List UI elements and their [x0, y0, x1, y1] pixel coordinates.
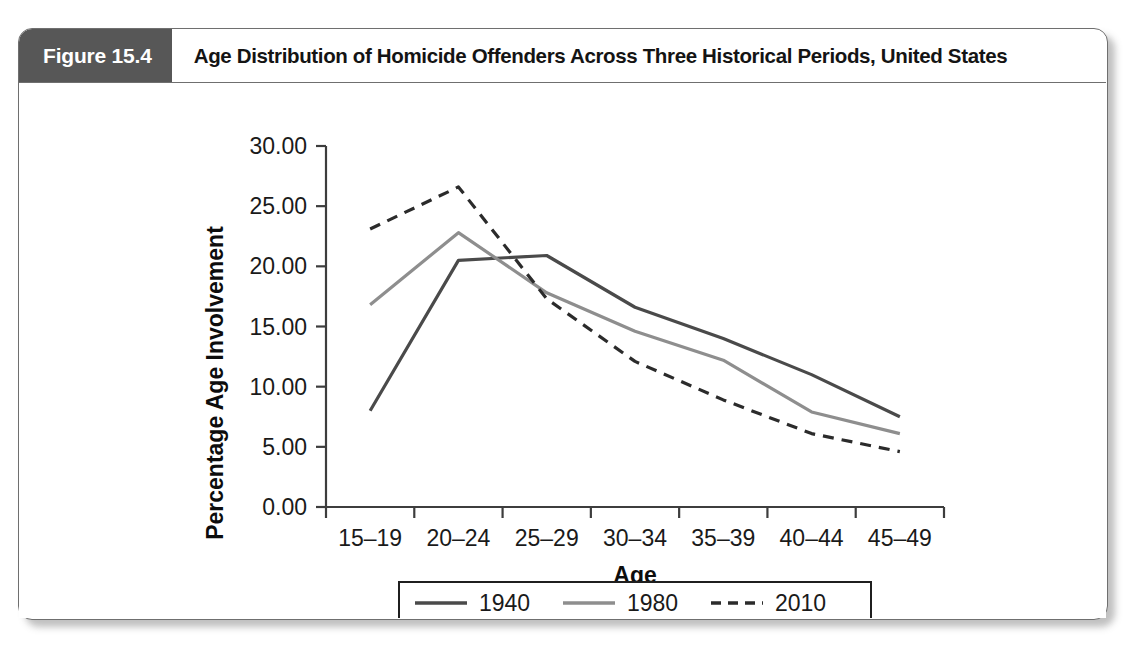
y-tick-label: 5.00: [262, 434, 307, 460]
chart-legend: 194019802010: [399, 582, 871, 618]
x-axis-ticks: 15–1920–2425–2930–3435–3940–4445–49: [326, 507, 944, 551]
series-line-1980: [370, 233, 900, 434]
figure-title: Age Distribution of Homicide Offenders A…: [172, 29, 1106, 82]
x-tick-label: 35–39: [691, 525, 755, 551]
series-line-1940: [370, 256, 900, 417]
y-tick-label: 20.00: [249, 253, 307, 279]
y-axis-ticks: 0.005.0010.0015.0020.0025.0030.00: [249, 133, 326, 520]
x-tick-label: 40–44: [780, 525, 844, 551]
figure-number-badge: Figure 15.4: [19, 29, 172, 82]
line-chart: Percentage Age Involvement 0.005.0010.00…: [19, 83, 1106, 618]
y-axis-title: Percentage Age Involvement: [202, 226, 228, 540]
legend-label-1980: 1980: [627, 590, 678, 616]
page-root: Figure 15.4 Age Distribution of Homicide…: [0, 0, 1143, 655]
chart-area: Percentage Age Involvement 0.005.0010.00…: [19, 83, 1106, 618]
x-tick-label: 15–19: [338, 525, 402, 551]
series-line-2010: [370, 187, 900, 452]
y-tick-label: 25.00: [249, 193, 307, 219]
x-tick-label: 30–34: [603, 525, 667, 551]
x-tick-label: 20–24: [426, 525, 490, 551]
figure-frame: Figure 15.4 Age Distribution of Homicide…: [18, 28, 1108, 620]
y-tick-label: 0.00: [262, 494, 307, 520]
x-tick-label: 25–29: [515, 525, 579, 551]
y-tick-label: 30.00: [249, 133, 307, 159]
series-lines: [370, 187, 900, 452]
legend-label-2010: 2010: [775, 590, 826, 616]
y-tick-label: 10.00: [249, 374, 307, 400]
figure-header: Figure 15.4 Age Distribution of Homicide…: [19, 29, 1106, 83]
legend-label-1940: 1940: [479, 590, 530, 616]
x-tick-label: 45–49: [868, 525, 932, 551]
y-tick-label: 15.00: [249, 314, 307, 340]
